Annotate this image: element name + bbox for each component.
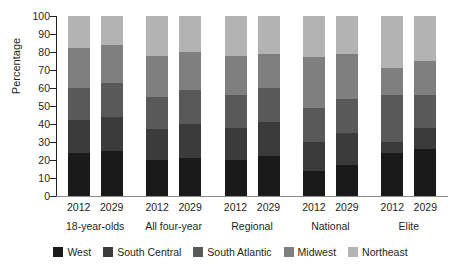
bar-18-year-olds-2029 xyxy=(101,16,123,196)
bar-segment-midwest xyxy=(179,52,201,90)
bar-segment-northeast xyxy=(101,16,123,45)
y-tick-label: 0 xyxy=(4,191,50,202)
y-axis-tick xyxy=(50,178,56,179)
y-axis-tick xyxy=(50,88,56,89)
legend-swatch-south-atlantic xyxy=(193,247,203,257)
y-tick-label: 40 xyxy=(4,119,50,130)
bar-segment-south-atlantic xyxy=(225,95,247,127)
bar-segment-south-atlantic xyxy=(101,83,123,117)
bar-segment-northeast xyxy=(179,16,201,52)
bar-segment-west xyxy=(381,153,403,196)
bar-segment-midwest xyxy=(303,57,325,107)
bar-segment-midwest xyxy=(225,56,247,96)
bar-segment-midwest xyxy=(146,56,168,97)
bar-segment-south-central xyxy=(414,128,436,150)
bar-segment-west xyxy=(303,171,325,196)
plot-area xyxy=(56,16,448,196)
legend-swatch-northeast xyxy=(348,247,358,257)
bar-segment-south-atlantic xyxy=(258,88,280,122)
bar-18-year-olds-2012 xyxy=(68,16,90,196)
bar-segment-south-atlantic xyxy=(179,90,201,124)
bar-segment-northeast xyxy=(381,16,403,68)
y-axis-tick xyxy=(50,142,56,143)
y-axis-tick xyxy=(50,16,56,17)
bar-segment-west xyxy=(146,160,168,196)
bar-segment-midwest xyxy=(68,48,90,88)
legend-label: Northeast xyxy=(362,246,408,258)
bar-segment-south-central xyxy=(225,128,247,160)
bar-segment-south-central xyxy=(303,142,325,171)
legend-label: Midwest xyxy=(298,246,337,258)
y-tick-label: 10 xyxy=(4,173,50,184)
legend-item: South Central xyxy=(103,246,181,258)
bar-segment-northeast xyxy=(414,16,436,61)
legend-label: South Central xyxy=(117,246,181,258)
bar-segment-midwest xyxy=(336,54,358,99)
bar-segment-south-central xyxy=(146,129,168,160)
bar-segment-northeast xyxy=(258,16,280,54)
bar-segment-south-central xyxy=(258,122,280,156)
bar-segment-west xyxy=(179,158,201,196)
y-axis-tick-labels: 0102030405060708090100 xyxy=(0,16,50,197)
chart-legend: WestSouth CentralSouth AtlanticMidwestNo… xyxy=(0,246,461,258)
y-axis-tick xyxy=(50,106,56,107)
y-tick-label: 80 xyxy=(4,47,50,58)
bar-segment-south-atlantic xyxy=(381,95,403,142)
bar-all-four-year-2029 xyxy=(179,16,201,196)
stacked-bar-chart: Percentage 0102030405060708090100 201220… xyxy=(0,0,461,270)
y-axis-tick xyxy=(50,196,56,197)
bar-regional-2012 xyxy=(225,16,247,196)
bar-segment-midwest xyxy=(101,45,123,83)
bar-segment-south-central xyxy=(336,133,358,165)
legend-item: Northeast xyxy=(348,246,408,258)
bar-segment-south-central xyxy=(179,124,201,158)
legend-label: West xyxy=(67,246,91,258)
bar-segment-south-atlantic xyxy=(414,95,436,127)
bar-segment-south-central xyxy=(101,117,123,151)
y-axis-tick xyxy=(50,160,56,161)
bar-segment-midwest xyxy=(381,68,403,95)
bar-segment-south-atlantic xyxy=(303,108,325,142)
bar-segment-west xyxy=(225,160,247,196)
x-tick-label-year: 2029 xyxy=(170,201,210,213)
bar-elite-2029 xyxy=(414,16,436,196)
bar-segment-west xyxy=(336,165,358,196)
bar-segment-west xyxy=(414,149,436,196)
bar-national-2029 xyxy=(336,16,358,196)
bar-segment-northeast xyxy=(146,16,168,56)
bar-segment-northeast xyxy=(225,16,247,56)
bar-segment-northeast xyxy=(68,16,90,48)
x-tick-label-year: 2029 xyxy=(405,201,445,213)
bar-segment-west xyxy=(101,151,123,196)
bar-segment-west xyxy=(258,156,280,196)
y-axis-tick xyxy=(50,34,56,35)
y-axis-tick xyxy=(50,70,56,71)
legend-item: Midwest xyxy=(284,246,337,258)
legend-item: West xyxy=(53,246,91,258)
bar-segment-south-central xyxy=(68,120,90,152)
y-tick-label: 60 xyxy=(4,83,50,94)
bar-elite-2012 xyxy=(381,16,403,196)
bar-segment-south-central xyxy=(381,142,403,153)
legend-swatch-midwest xyxy=(284,247,294,257)
bar-national-2012 xyxy=(303,16,325,196)
y-axis-tick xyxy=(50,52,56,53)
x-tick-label-year: 2029 xyxy=(92,201,132,213)
y-tick-label: 30 xyxy=(4,137,50,148)
bar-segment-south-atlantic xyxy=(336,99,358,133)
legend-swatch-west xyxy=(53,247,63,257)
x-tick-label-year: 2029 xyxy=(327,201,367,213)
bar-segment-south-atlantic xyxy=(146,97,168,129)
bar-segment-south-atlantic xyxy=(68,88,90,120)
bar-segment-northeast xyxy=(336,16,358,54)
y-tick-label: 50 xyxy=(4,101,50,112)
y-tick-label: 70 xyxy=(4,65,50,76)
legend-swatch-south-central xyxy=(103,247,113,257)
bar-regional-2029 xyxy=(258,16,280,196)
x-axis-line xyxy=(56,196,448,197)
bar-segment-west xyxy=(68,153,90,196)
x-tick-label-year: 2029 xyxy=(249,201,289,213)
bar-segment-midwest xyxy=(258,54,280,88)
bar-segment-midwest xyxy=(414,61,436,95)
x-group-label: Elite xyxy=(349,220,461,232)
